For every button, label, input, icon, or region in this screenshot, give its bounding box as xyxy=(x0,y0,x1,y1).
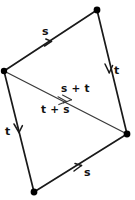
diagonal-label-t-plus-s: t + s xyxy=(41,104,70,115)
top-edge-label-s: s xyxy=(42,26,49,37)
bottom-edge-label-s: s xyxy=(84,167,91,178)
diagonal-label-s-plus-t: s + t xyxy=(61,83,90,94)
right-edge-label-t: t xyxy=(114,65,119,76)
bottom-edge-line xyxy=(34,134,127,192)
vertex-right xyxy=(124,131,131,138)
vertex-top xyxy=(94,7,101,14)
diagram-canvas xyxy=(0,0,135,200)
vector-diagram-figure: s t t s s + t t + s xyxy=(0,0,135,200)
right-edge-line xyxy=(97,10,127,134)
vertex-left xyxy=(1,68,7,74)
left-edge-label-t: t xyxy=(5,126,10,137)
vertex-bottom xyxy=(31,189,38,196)
